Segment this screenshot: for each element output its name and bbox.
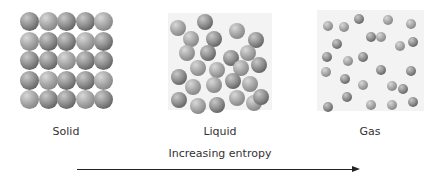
particle xyxy=(57,51,76,70)
particle xyxy=(190,98,206,114)
particle xyxy=(343,56,353,66)
particle xyxy=(376,32,386,42)
particle xyxy=(94,71,113,90)
particle xyxy=(94,12,113,31)
entropy-arrow-label: Increasing entropy xyxy=(160,147,280,160)
particle xyxy=(354,14,364,24)
particle xyxy=(321,67,331,77)
particle xyxy=(190,60,206,76)
particle xyxy=(387,81,397,91)
particle xyxy=(171,92,187,108)
particle xyxy=(251,57,267,73)
particle xyxy=(20,32,39,51)
particle xyxy=(387,100,397,110)
particle xyxy=(179,45,195,61)
particle xyxy=(76,32,95,51)
particle xyxy=(408,37,418,47)
particle xyxy=(209,62,225,78)
particle xyxy=(358,80,368,90)
arrow-head-icon xyxy=(352,166,360,172)
particle xyxy=(225,73,241,89)
particle xyxy=(383,15,393,25)
particle xyxy=(57,71,76,90)
particle xyxy=(339,22,349,32)
particle xyxy=(206,77,222,93)
particle xyxy=(342,92,352,102)
particle xyxy=(20,51,39,70)
particle xyxy=(39,32,58,51)
particle xyxy=(395,41,405,51)
particle xyxy=(76,12,95,31)
particle xyxy=(39,51,58,70)
particle xyxy=(57,90,76,109)
particle xyxy=(358,52,368,62)
particle xyxy=(398,84,408,94)
particle xyxy=(366,100,376,110)
particle xyxy=(323,102,333,112)
particle xyxy=(76,71,95,90)
particle xyxy=(20,12,39,31)
solid-label: Solid xyxy=(36,125,96,138)
particle xyxy=(185,79,201,95)
particle xyxy=(94,32,113,51)
particle xyxy=(406,66,416,76)
particle xyxy=(39,90,58,109)
particle xyxy=(57,32,76,51)
particle xyxy=(376,65,386,75)
particle xyxy=(197,14,213,30)
particle xyxy=(57,12,76,31)
particle xyxy=(94,90,113,109)
solid-panel xyxy=(20,12,113,111)
particle xyxy=(408,97,418,107)
particle xyxy=(229,23,245,39)
particle xyxy=(76,51,95,70)
particle xyxy=(229,90,245,106)
particle xyxy=(39,12,58,31)
particle xyxy=(323,21,333,31)
gas-label: Gas xyxy=(340,125,400,138)
particle xyxy=(171,69,187,85)
particle xyxy=(253,89,269,105)
particle xyxy=(332,39,342,49)
particle xyxy=(20,71,39,90)
particle xyxy=(340,74,350,84)
particle xyxy=(209,97,225,113)
liquid-label: Liquid xyxy=(190,125,250,138)
particle xyxy=(94,51,113,70)
particle xyxy=(39,71,58,90)
particle xyxy=(200,45,216,61)
entropy-arrow-line xyxy=(77,169,353,170)
particle xyxy=(366,32,376,42)
particle xyxy=(20,90,39,109)
particle xyxy=(76,90,95,109)
particle xyxy=(406,19,416,29)
particle xyxy=(322,52,332,62)
